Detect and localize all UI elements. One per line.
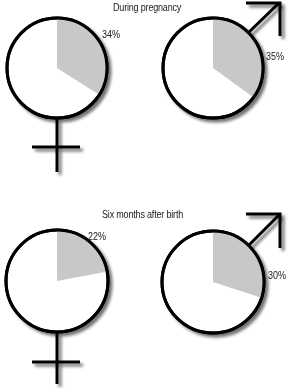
- label-male-pregnancy: 35%: [266, 51, 284, 62]
- chart-title-pregnancy: During pregnancy: [113, 2, 181, 13]
- label-female-after-birth: 22%: [88, 231, 106, 242]
- label-male-after-birth: 30%: [268, 270, 286, 281]
- chart-canvas: [0, 0, 290, 388]
- chart-title-after-birth: Six months after birth: [102, 209, 183, 220]
- label-female-pregnancy: 34%: [102, 29, 120, 40]
